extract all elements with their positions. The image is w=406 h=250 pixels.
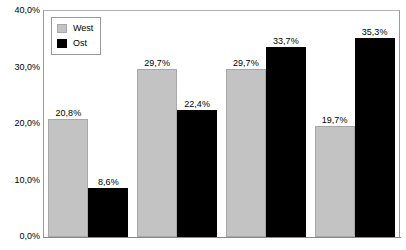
legend-item-west[interactable]: West bbox=[57, 22, 93, 35]
bar-value-label: 8,6% bbox=[98, 177, 119, 187]
bar-ost[interactable] bbox=[355, 38, 395, 237]
bar-group: 29,7%22,4% bbox=[137, 11, 217, 237]
y-axis-tick-label: 30,0% bbox=[0, 63, 40, 72]
bar-value-label: 19,7% bbox=[322, 115, 348, 125]
bar-west[interactable] bbox=[226, 69, 266, 237]
y-axis-tick-label: 0,0% bbox=[0, 232, 40, 241]
bar-value-label: 22,4% bbox=[184, 99, 210, 109]
y-axis-tick-label: 10,0% bbox=[0, 176, 40, 185]
bar-west[interactable] bbox=[137, 69, 177, 237]
bar-west[interactable] bbox=[315, 126, 355, 237]
bar-value-label: 35,3% bbox=[362, 27, 388, 37]
bar-ost[interactable] bbox=[88, 188, 128, 237]
legend-item-ost[interactable]: Ost bbox=[57, 37, 93, 50]
bar-group: 29,7%33,7% bbox=[226, 11, 306, 237]
ost-color-swatch-icon bbox=[57, 39, 67, 48]
west-color-swatch-icon bbox=[57, 24, 67, 33]
bar-value-label: 33,7% bbox=[273, 36, 299, 46]
bar-chart: 40,0%30,0%20,0%10,0%0,0% 20,8%8,6%29,7%2… bbox=[0, 0, 406, 250]
bar-value-label: 29,7% bbox=[144, 58, 170, 68]
y-axis-labels: 40,0%30,0%20,0%10,0%0,0% bbox=[0, 0, 40, 250]
chart-legend: West Ost bbox=[51, 17, 101, 55]
legend-label-west: West bbox=[73, 24, 93, 33]
y-axis-tick-label: 20,0% bbox=[0, 119, 40, 128]
bar-west[interactable] bbox=[48, 119, 88, 237]
x-axis-line bbox=[43, 237, 401, 238]
bar-ost[interactable] bbox=[266, 47, 306, 237]
chart-title bbox=[60, 0, 350, 2]
bar-value-label: 29,7% bbox=[233, 58, 259, 68]
y-axis-tick-label: 40,0% bbox=[0, 6, 40, 15]
legend-label-ost: Ost bbox=[73, 39, 87, 48]
bar-value-label: 20,8% bbox=[56, 108, 82, 118]
bar-group: 19,7%35,3% bbox=[315, 11, 395, 237]
bar-ost[interactable] bbox=[177, 110, 217, 237]
